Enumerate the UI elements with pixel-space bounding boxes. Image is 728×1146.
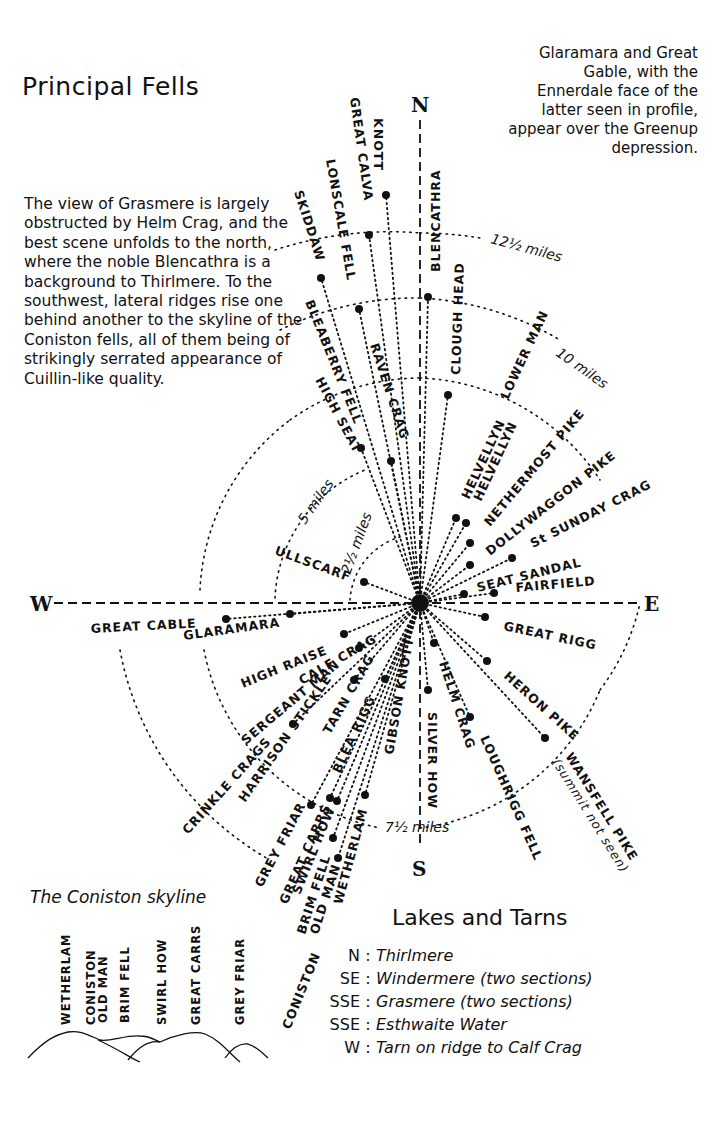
fell-label: LONSCALE FELL	[323, 158, 359, 282]
lake-row: SSE:Esthwaite Water	[300, 1015, 507, 1034]
lake-direction: N	[300, 946, 360, 965]
lake-name: Grasmere (two sections)	[376, 992, 573, 1011]
fell-label: SKIDDAW	[291, 188, 328, 263]
coniston-skyline-profile	[28, 1032, 268, 1062]
fell-label: GLARAMARA	[182, 615, 281, 643]
lake-separator: :	[360, 1015, 376, 1034]
skyline-label: GREY FRIAR	[233, 938, 247, 1025]
lake-direction: SE	[300, 969, 360, 988]
fell-label: HELM CRAG	[436, 659, 479, 751]
skyline-label: SWIRL HOW	[155, 938, 169, 1025]
lake-name: Windermere (two sections)	[376, 969, 593, 988]
fell-label: BLENCATHRA	[428, 169, 443, 272]
fell-label: HERON PIKE	[501, 668, 582, 743]
fell-label: LOUGHRIGG FELL	[477, 733, 546, 863]
lake-separator: :	[360, 946, 376, 965]
compass-west: W	[29, 592, 53, 616]
compass-east: E	[644, 592, 659, 616]
ring-label-12-5: 12½ miles	[489, 230, 564, 264]
lake-name: Esthwaite Water	[376, 1015, 507, 1034]
ring-label-7-5: 7½ miles	[385, 819, 449, 835]
lake-separator: :	[360, 969, 376, 988]
compass-south: S	[412, 857, 426, 881]
compass-north: N	[411, 93, 429, 117]
lake-row: SSE:Grasmere (two sections)	[300, 992, 573, 1011]
skyline-label: WETHERLAM	[59, 934, 73, 1025]
lake-direction: SSE	[300, 992, 360, 1011]
lake-separator: :	[360, 992, 376, 1011]
lake-separator: :	[360, 1038, 376, 1057]
lake-name: Tarn on ridge to Calf Crag	[376, 1038, 582, 1057]
lake-row: N:Thirlmere	[300, 946, 453, 965]
coniston-skyline-labels: WETHERLAM CONISTON OLD MAN BRIM FELL SWI…	[59, 925, 247, 1025]
ring-10-miles-nw	[280, 298, 420, 330]
fell-label: SILVER HOW	[425, 712, 440, 809]
viewpoint-marker	[411, 594, 429, 612]
ring-label-5: 5 miles	[294, 476, 336, 527]
skyline-heading: The Coniston skyline	[30, 887, 206, 907]
lakes-heading: Lakes and Tarns	[392, 905, 567, 930]
ring-7-5-miles-e	[600, 603, 640, 690]
fell-label: KNOTT	[371, 118, 386, 171]
fell-label: GREAT CABLE	[90, 615, 197, 636]
fell-label: CLOUGH HEAD	[448, 262, 467, 375]
ring-label-10: 10 miles	[553, 344, 611, 391]
fell-label: RAVEN CRAG	[367, 341, 412, 441]
skyline-label: OLD MAN	[96, 955, 110, 1023]
lake-row: W:Tarn on ridge to Calf Crag	[300, 1038, 582, 1057]
fell-label: LOWER MAN	[497, 308, 551, 401]
fell-label: GREAT RIGG	[502, 618, 598, 652]
lake-row: SE:Windermere (two sections)	[300, 969, 593, 988]
lake-direction: W	[300, 1038, 360, 1057]
fell-label: GIBSON KNOTT	[381, 636, 416, 756]
ring-7-5-miles-nw	[200, 420, 290, 590]
skyline-label: BRIM FELL	[118, 946, 132, 1023]
lake-direction: SSE	[300, 1015, 360, 1034]
skyline-label: GREAT CARRS	[189, 925, 203, 1025]
lake-name: Thirlmere	[376, 946, 453, 965]
